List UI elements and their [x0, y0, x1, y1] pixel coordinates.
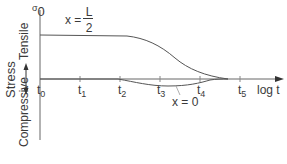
- fraction-denominator: 2: [84, 21, 94, 35]
- tick-label-t2: t2: [118, 84, 126, 99]
- curve-label-x-L-over-2: x =: [65, 14, 81, 26]
- curve-x-0-leader: [176, 86, 180, 95]
- tick-label-t5: t5: [238, 84, 246, 99]
- fraction-numerator: L: [84, 5, 94, 19]
- diagram-graphics: [0, 0, 287, 164]
- x-axis-label: log t: [257, 84, 280, 96]
- curve-label-prefix: x =: [65, 13, 81, 27]
- tick-label-t0: t0: [37, 84, 45, 99]
- curve-x-L-over-2: [40, 35, 228, 79]
- stress-relaxation-diagram: σ0 Tensile Compressive Stress x = L 2 x …: [0, 0, 287, 164]
- y-label-stress: Stress: [3, 61, 18, 98]
- tick-label-t3: t3: [157, 84, 165, 99]
- cropped-caption-remnant: [40, 158, 250, 162]
- tick-label-t4: t4: [197, 84, 205, 99]
- y-label-compressive: Compressive: [17, 77, 31, 147]
- x-axis-arrow-icon: [275, 76, 284, 82]
- curve-label-x-0: x = 0: [172, 96, 198, 108]
- fraction-bar: [83, 18, 93, 19]
- sigma-subscript: 0: [38, 4, 45, 19]
- arrow-up-icon: [24, 63, 29, 70]
- y-label-tensile: Tensile: [17, 23, 31, 60]
- tick-label-t1: t1: [78, 84, 86, 99]
- y-axis-symbol: σ0: [32, 4, 45, 18]
